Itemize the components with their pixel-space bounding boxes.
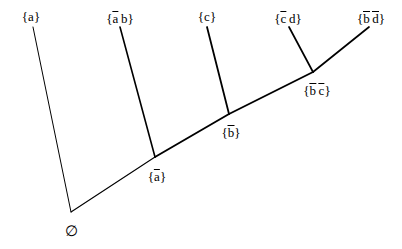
edge-root-a [33, 27, 71, 212]
edge-bcbar-bd [313, 27, 369, 72]
node-label-leaf-a: {a} [22, 10, 40, 24]
brace-glyph: } [160, 170, 166, 184]
node-label-leaf-c: {c} [198, 10, 216, 24]
node-label-n-a-bar: {a} [148, 168, 166, 184]
brace-glyph: } [127, 12, 133, 26]
edge-bbar-c [207, 27, 229, 114]
edge-layer [0, 0, 402, 249]
edge-bbar-bcbar [229, 72, 313, 114]
brace-glyph: } [34, 10, 40, 24]
node-label-n-bc-bar: {bc} [303, 82, 330, 98]
edge-abar-ab [120, 27, 155, 157]
lattice-diagram: {a}{ab}{c}{cd}{bd}{a}{b}{bc}∅ [0, 0, 402, 249]
edge-bcbar-cd [289, 27, 313, 72]
edge-abar-bbar [155, 114, 229, 157]
node-label-leaf-bd: {bd} [357, 10, 385, 26]
node-label-leaf-cd: {cd} [274, 10, 301, 26]
node-label-root: ∅ [65, 224, 78, 239]
node-label-n-b-bar: {b} [222, 124, 241, 140]
overlined-letter: b [363, 11, 370, 26]
node-label-leaf-ab: {ab} [106, 10, 133, 26]
brace-glyph: } [234, 126, 240, 140]
brace-glyph: } [210, 10, 216, 24]
overlined-letter: c [281, 11, 287, 26]
brace-glyph: } [324, 84, 330, 98]
overlined-letter: b [310, 83, 317, 98]
edge-root-abar [71, 157, 155, 212]
overlined-letter: a [113, 11, 119, 26]
brace-glyph: } [379, 12, 385, 26]
brace-glyph: } [295, 12, 301, 26]
